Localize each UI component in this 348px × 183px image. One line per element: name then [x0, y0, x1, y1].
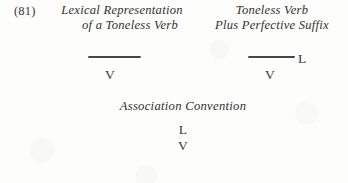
right-column-heading: Toneless Verb Plus Perfective Suffix	[202, 3, 342, 33]
association-result-stack: L V	[0, 122, 348, 154]
right-segment-v: V	[265, 67, 275, 83]
result-stack-inner: L V	[160, 122, 188, 154]
figure-canvas: (81) Lexical Representation of a Toneles…	[0, 0, 348, 183]
association-convention-caption: Association Convention	[0, 99, 348, 114]
association-convention-label: Association Convention	[102, 99, 247, 113]
left-column-heading: Lexical Representation of a Toneless Ver…	[48, 3, 196, 33]
left-heading-line-1: Lexical Representation	[48, 3, 196, 18]
right-tone-tier-line	[248, 56, 295, 58]
left-tone-tier-line	[88, 56, 141, 58]
result-tone-l: L	[178, 122, 188, 138]
right-tone-label-l: L	[298, 51, 307, 67]
example-number: (81)	[14, 4, 36, 19]
result-segment-v: V	[178, 138, 188, 154]
left-segment-v: V	[105, 67, 115, 83]
right-heading-line-1: Toneless Verb	[202, 3, 342, 18]
right-heading-line-2: Plus Perfective Suffix	[202, 18, 342, 33]
left-heading-line-2: of a Toneless Verb	[48, 18, 196, 33]
